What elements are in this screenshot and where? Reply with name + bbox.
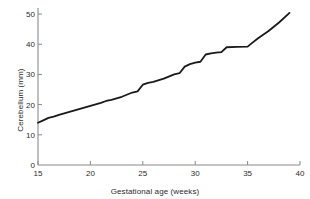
axes-group [38, 8, 300, 165]
data-series-line [38, 13, 290, 123]
y-tick-label: 20 [26, 100, 35, 109]
y-tick-label: 40 [26, 40, 35, 49]
x-axis-title: Gestational age (weeks) [0, 187, 310, 196]
y-axis-title: Cerebellum (mm) [16, 40, 25, 160]
x-tick-label: 35 [243, 169, 252, 178]
chart-plot-area [0, 0, 310, 199]
x-tick-label: 30 [191, 169, 200, 178]
x-tick-label: 40 [296, 169, 305, 178]
y-tick-label: 30 [26, 70, 35, 79]
y-tick-label: 10 [26, 130, 35, 139]
cerebellum-growth-chart: 152025303540 01020304050 Gestational age… [0, 0, 310, 199]
x-tick-label: 20 [86, 169, 95, 178]
x-tick-label: 25 [138, 169, 147, 178]
y-tick-label: 50 [26, 10, 35, 19]
x-tick-label: 15 [34, 169, 43, 178]
y-tick-label: 0 [31, 161, 35, 170]
